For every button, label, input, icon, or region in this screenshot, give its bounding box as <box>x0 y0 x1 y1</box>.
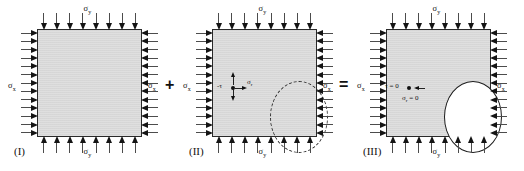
load-arrow-top <box>53 13 60 30</box>
load-arrow-top <box>281 13 288 30</box>
load-arrow-right <box>316 121 333 128</box>
load-arrow-left <box>370 63 387 70</box>
load-arrow-left <box>196 113 213 120</box>
load-arrow-right <box>490 38 507 45</box>
load-arrow-left <box>21 88 38 95</box>
load-arrow-left <box>196 104 213 111</box>
load-arrow-bottom <box>281 136 288 153</box>
load-arrow-left <box>196 121 213 128</box>
load-arrow-top <box>119 13 126 30</box>
load-arrow-right <box>490 104 507 111</box>
load-arrow-right <box>490 63 507 70</box>
panel-two: σy σy σx σx -τ σr (II) <box>175 0 350 171</box>
load-arrow-right <box>141 88 158 95</box>
load-arrow-bottom <box>119 136 126 153</box>
load-arrow-right <box>490 88 507 95</box>
load-arrow-top <box>66 13 73 30</box>
load-arrow-right <box>141 38 158 45</box>
load-arrow-left <box>21 96 38 103</box>
stress-label-top: σy <box>0 3 175 15</box>
load-arrow-bottom <box>254 136 261 153</box>
panel-caption: (I) <box>14 145 25 157</box>
load-arrow-top <box>307 13 314 30</box>
load-arrow-top <box>442 13 449 30</box>
load-arrow-left <box>196 38 213 45</box>
load-arrow-left <box>370 80 387 87</box>
load-arrow-top <box>389 13 396 30</box>
load-arrow-top <box>455 13 462 30</box>
load-arrow-right <box>141 129 158 136</box>
load-arrow-bottom <box>455 136 462 153</box>
load-arrow-bottom <box>79 136 86 153</box>
load-arrow-right <box>316 71 333 78</box>
load-arrow-left <box>21 113 38 120</box>
load-arrow-right <box>490 30 507 37</box>
equals-operator: = <box>339 76 348 94</box>
panel-three: σy σy σx σx τ = 0 σr = 0 (III) <box>349 0 524 171</box>
load-arrow-left <box>21 71 38 78</box>
load-arrow-right <box>141 121 158 128</box>
load-arrow-top <box>215 13 222 30</box>
load-arrow-left <box>370 96 387 103</box>
load-arrow-left <box>21 38 38 45</box>
normal-zero-label: σr = 0 <box>402 94 418 103</box>
load-arrow-bottom <box>415 136 422 153</box>
load-arrow-bottom <box>93 136 100 153</box>
load-arrow-right <box>490 80 507 87</box>
load-arrow-bottom <box>132 136 139 153</box>
stress-label-left: σx <box>357 80 365 92</box>
plus-operator: + <box>165 76 174 94</box>
load-arrow-left <box>370 38 387 45</box>
load-arrow-top <box>481 13 488 30</box>
load-arrow-left <box>196 88 213 95</box>
load-arrow-right <box>316 30 333 37</box>
load-arrow-left <box>196 96 213 103</box>
load-arrow-top <box>228 13 235 30</box>
load-arrow-top <box>402 13 409 30</box>
load-arrow-right <box>316 88 333 95</box>
load-arrow-left <box>196 46 213 53</box>
stress-label-top: σy <box>175 3 350 15</box>
load-arrow-left <box>21 55 38 62</box>
shear-label: -τ <box>217 82 222 90</box>
load-arrow-left <box>370 88 387 95</box>
load-arrow-left <box>370 55 387 62</box>
load-arrow-top <box>254 13 261 30</box>
load-arrow-bottom <box>294 136 301 153</box>
shear-zero-label: τ = 0 <box>385 82 399 90</box>
load-arrow-top <box>241 13 248 30</box>
load-arrow-right <box>490 55 507 62</box>
panel-caption: (II) <box>189 145 204 157</box>
load-arrow-top <box>93 13 100 30</box>
load-arrow-left <box>21 121 38 128</box>
load-arrow-top <box>428 13 435 30</box>
load-arrow-bottom <box>53 136 60 153</box>
load-arrow-right <box>141 71 158 78</box>
load-arrow-left <box>196 30 213 37</box>
load-arrow-bottom <box>106 136 113 153</box>
stressed-block: τ = 0 σr = 0 <box>386 29 491 137</box>
load-arrow-bottom <box>389 136 396 153</box>
load-arrow-bottom <box>402 136 409 153</box>
load-arrow-right <box>141 104 158 111</box>
load-arrow-bottom <box>215 136 222 153</box>
load-arrow-left <box>196 80 213 87</box>
load-arrow-right <box>490 121 507 128</box>
load-arrow-right <box>490 96 507 103</box>
load-arrow-bottom <box>228 136 235 153</box>
load-arrow-right <box>316 113 333 120</box>
load-arrow-right <box>141 80 158 87</box>
load-arrow-top <box>294 13 301 30</box>
load-arrow-right <box>141 113 158 120</box>
load-arrow-top <box>106 13 113 30</box>
load-arrow-left <box>370 113 387 120</box>
load-arrow-right <box>316 38 333 45</box>
load-arrow-left <box>21 104 38 111</box>
load-arrow-bottom <box>268 136 275 153</box>
stress-label-top: σy <box>349 3 524 15</box>
load-arrow-left <box>196 63 213 70</box>
load-arrow-top <box>40 13 47 30</box>
block-fill <box>38 30 141 136</box>
load-arrow-bottom <box>40 136 47 153</box>
load-arrow-right <box>141 55 158 62</box>
